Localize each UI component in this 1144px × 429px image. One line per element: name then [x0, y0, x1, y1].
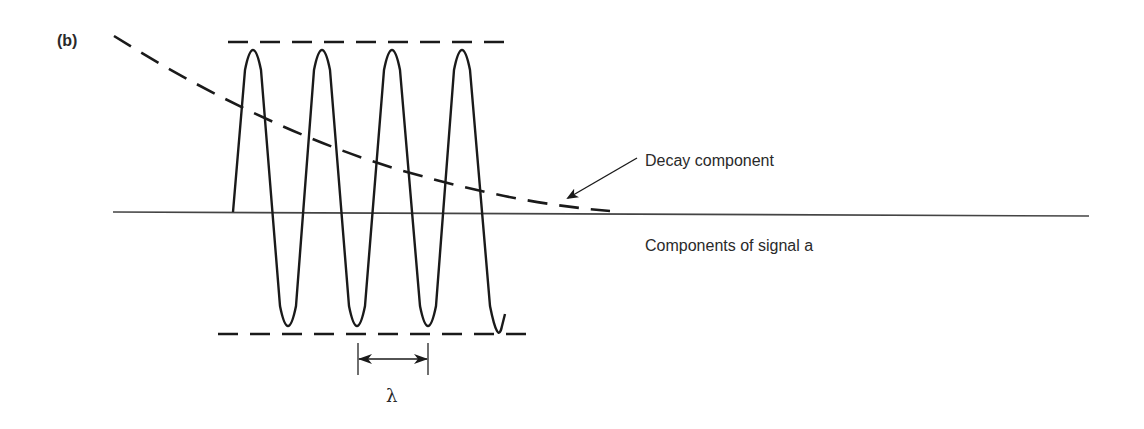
decay-pointer-arrow: [568, 158, 637, 198]
signal-diagram: [0, 0, 1144, 429]
decay-curve: [114, 36, 610, 211]
baseline: [113, 212, 1089, 216]
signal-components-label: Components of signal a: [645, 237, 813, 255]
wavelength-label: λ: [386, 385, 397, 406]
decay-component-label: Decay component: [645, 152, 774, 170]
oscillation-wave: [233, 50, 505, 333]
